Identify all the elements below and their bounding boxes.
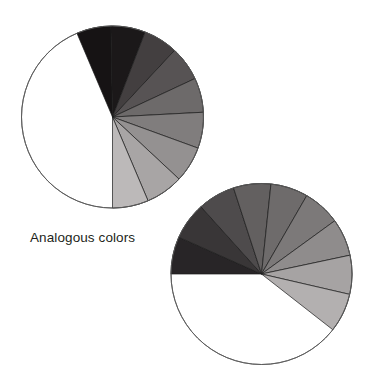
caption-analogous-colors: Analogous colors bbox=[30, 230, 135, 245]
bottom-pie-chart bbox=[171, 184, 352, 365]
top-pie-chart bbox=[22, 26, 204, 208]
figure-canvas: Analogous colors bbox=[0, 0, 371, 391]
analogous-colors-figure bbox=[0, 0, 371, 391]
